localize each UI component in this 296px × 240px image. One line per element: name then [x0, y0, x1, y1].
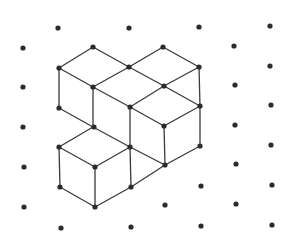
grid-dot [161, 83, 166, 88]
grid-dot [197, 143, 202, 148]
grid-dot [128, 184, 133, 189]
grid-dot [21, 164, 26, 169]
grid-dot [231, 43, 236, 48]
grid-dot [56, 65, 61, 70]
grid-dot [90, 84, 95, 89]
grid-dot [21, 204, 26, 209]
grid-dot [269, 182, 274, 187]
grid-dot [127, 144, 132, 149]
grid-dot [58, 225, 63, 230]
grid-dot [198, 183, 203, 188]
grid-dot [20, 124, 25, 129]
isometric-cube-drawing [0, 0, 296, 240]
grid-dot [267, 63, 272, 68]
grid-dot [55, 25, 60, 30]
grid-dot [269, 222, 274, 227]
grid-dot [268, 102, 273, 107]
grid-dot [128, 224, 133, 229]
grid-dot [267, 23, 272, 28]
grid-dot [126, 25, 131, 30]
grid-dot [20, 45, 25, 50]
grid-dot [160, 44, 165, 49]
grid-dot [57, 184, 62, 189]
grid-dot [232, 82, 237, 87]
grid-dot [127, 104, 132, 109]
grid-dot [20, 84, 25, 89]
grid-dot [162, 162, 167, 167]
grid-dot [198, 223, 203, 228]
grid-dot [232, 122, 237, 127]
grid-dot [90, 44, 95, 49]
grid-dot [126, 64, 131, 69]
grid-dot [268, 142, 273, 147]
grid-dot [91, 124, 96, 129]
grid-dot [56, 105, 61, 110]
background [0, 0, 296, 240]
grid-dot [92, 204, 97, 209]
grid-dot [196, 64, 201, 69]
grid-dot [162, 202, 167, 207]
grid-dot [197, 103, 202, 108]
grid-dot [161, 123, 166, 128]
grid-dot [233, 201, 238, 206]
grid-dot [196, 24, 201, 29]
grid-dot [92, 164, 97, 169]
grid-dot [56, 144, 61, 149]
grid-dot [233, 161, 238, 166]
